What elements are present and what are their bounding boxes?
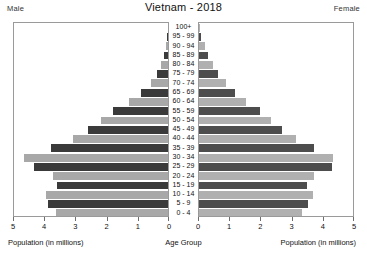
bar-row	[14, 107, 168, 116]
bar-row	[14, 88, 168, 97]
bar-male-55-59	[113, 107, 168, 115]
right-axis-caption: Population (in millions)	[281, 238, 356, 247]
axis-tick-label: 2	[258, 222, 262, 231]
bar-female-80-84	[199, 61, 213, 69]
bar-male-0-4	[56, 209, 168, 217]
axis-tick-label: 3	[73, 222, 77, 231]
age-group-label: 95 - 99	[169, 31, 198, 40]
axis-tick	[292, 217, 293, 221]
bar-row	[199, 190, 353, 199]
bar-male-15-19	[57, 182, 168, 190]
population-pyramid-chart: Male Vietnam - 2018 Female 100+95 - 9990…	[0, 0, 367, 265]
bar-male-5-9	[48, 200, 168, 208]
axis-tick	[75, 217, 76, 221]
bar-row	[199, 181, 353, 190]
bar-row	[14, 116, 168, 125]
age-group-label: 60 - 64	[169, 96, 198, 105]
age-group-label: 45 - 49	[169, 124, 198, 133]
bar-row	[199, 144, 353, 153]
bar-male-80-84	[161, 61, 168, 69]
bar-female-5-9	[199, 200, 308, 208]
axis-tick-label: 4	[321, 222, 325, 231]
bar-female-30-34	[199, 154, 333, 162]
bar-row	[14, 23, 168, 32]
male-plot-panel	[13, 22, 169, 217]
bar-female-10-14	[199, 191, 313, 199]
bar-row	[199, 69, 353, 78]
axis-tick-label: 3	[290, 222, 294, 231]
bar-female-20-24	[199, 172, 314, 180]
bar-male-35-39	[51, 144, 168, 152]
axis-tick-label: 5	[352, 222, 356, 231]
bar-male-75-79	[157, 70, 168, 78]
bar-female-45-49	[199, 126, 282, 134]
axis-tick-label: 1	[227, 222, 231, 231]
age-group-label: 25 - 29	[169, 161, 198, 170]
age-group-label: 15 - 19	[169, 180, 198, 189]
bar-row	[199, 107, 353, 116]
bar-male-85-89	[164, 52, 168, 60]
bar-male-65-69	[141, 89, 168, 97]
bar-female-60-64	[199, 98, 246, 106]
axis-tick-label: 0	[167, 222, 171, 231]
bar-row	[14, 60, 168, 69]
bar-row	[14, 190, 168, 199]
age-group-label: 0 - 4	[169, 208, 198, 217]
bar-row	[14, 32, 168, 41]
bar-male-25-29	[34, 163, 168, 171]
male-x-axis: 543210	[13, 217, 169, 239]
axis-tick-label: 1	[136, 222, 140, 231]
bar-row	[199, 162, 353, 171]
bar-female-15-19	[199, 182, 307, 190]
axis-tick	[107, 217, 108, 221]
age-group-label: 90 - 94	[169, 41, 198, 50]
bar-row	[199, 32, 353, 41]
age-group-label: 75 - 79	[169, 68, 198, 77]
bar-row	[199, 88, 353, 97]
bar-row	[14, 199, 168, 208]
bar-female-95-99	[199, 33, 201, 41]
bar-female-65-69	[199, 89, 235, 97]
bar-row	[199, 172, 353, 181]
age-group-label: 10 - 14	[169, 189, 198, 198]
bar-row	[14, 172, 168, 181]
bar-row	[14, 209, 168, 217]
chart-title: Vietnam - 2018	[0, 1, 367, 13]
female-x-axis: 012345	[198, 217, 354, 239]
age-group-label: 50 - 54	[169, 115, 198, 124]
bar-female-40-44	[199, 135, 296, 143]
axis-tick-label: 4	[42, 222, 46, 231]
bar-row	[14, 97, 168, 106]
bar-row	[199, 153, 353, 162]
bar-row	[14, 134, 168, 143]
axis-tick	[323, 217, 324, 221]
bar-row	[14, 144, 168, 153]
axis-tick-label: 2	[105, 222, 109, 231]
age-group-label: 80 - 84	[169, 59, 198, 68]
axis-tick	[260, 217, 261, 221]
bar-row	[14, 69, 168, 78]
bar-female-75-79	[199, 70, 218, 78]
age-group-label: 55 - 59	[169, 106, 198, 115]
age-group-label: 40 - 44	[169, 133, 198, 142]
axis-tick	[353, 217, 354, 221]
bar-row	[199, 199, 353, 208]
bar-row	[199, 209, 353, 217]
male-bar-rows	[14, 23, 168, 216]
axis-tick	[168, 217, 169, 221]
bar-male-10-14	[46, 191, 168, 199]
bar-row	[14, 153, 168, 162]
bar-row	[199, 42, 353, 51]
bar-male-40-44	[73, 135, 168, 143]
bar-male-90-94	[166, 42, 168, 50]
bar-row	[14, 125, 168, 134]
female-side-label: Female	[334, 4, 360, 13]
bar-row	[14, 42, 168, 51]
bar-row	[14, 51, 168, 60]
bar-female-85-89	[199, 52, 208, 60]
age-group-label: 30 - 34	[169, 152, 198, 161]
bar-row	[14, 181, 168, 190]
axis-tick-label: 0	[196, 222, 200, 231]
bar-female-25-29	[199, 163, 332, 171]
bar-male-20-24	[53, 172, 168, 180]
